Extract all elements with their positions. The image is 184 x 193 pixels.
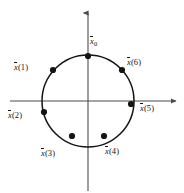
point-label-x0-var: x <box>90 36 94 46</box>
point-marker-x4 <box>101 133 107 139</box>
point-label-x4-var: x <box>105 146 109 156</box>
point-marker-x0 <box>85 53 91 59</box>
point-label-x3-var: x <box>41 148 45 158</box>
point-label-x3: x(3) <box>41 148 55 158</box>
point-label-x5-index: (5) <box>144 103 154 113</box>
point-label-x5-var: x <box>140 103 144 113</box>
point-label-x4-index: (4) <box>109 146 119 156</box>
point-label-x6-var: x <box>127 57 131 67</box>
point-label-x0: x0 <box>90 36 97 48</box>
point-label-x3-index: (3) <box>45 148 55 158</box>
point-label-x1-var: x <box>14 62 18 72</box>
point-marker-x2 <box>41 109 47 115</box>
point-label-x5: x(5) <box>140 103 154 113</box>
point-label-x6-index: (6) <box>131 57 141 67</box>
point-marker-x5 <box>128 101 134 107</box>
figure-canvas: x0 x(1) x(2) x(3) x(4) x(5) x(6) <box>0 0 184 193</box>
point-marker-x3 <box>69 133 75 139</box>
point-label-x4: x(4) <box>105 146 119 156</box>
point-label-x2-var: x <box>8 110 12 120</box>
point-label-x1: x(1) <box>14 62 28 72</box>
point-label-x6: x(6) <box>127 57 141 67</box>
diagram-svg <box>0 0 184 193</box>
point-label-x2-index: (2) <box>12 110 22 120</box>
point-label-x2: x(2) <box>8 110 22 120</box>
point-marker-x6 <box>119 67 125 73</box>
point-label-x0-subscript: 0 <box>94 40 97 47</box>
point-label-x1-index: (1) <box>18 62 28 72</box>
point-marker-x1 <box>50 67 56 73</box>
